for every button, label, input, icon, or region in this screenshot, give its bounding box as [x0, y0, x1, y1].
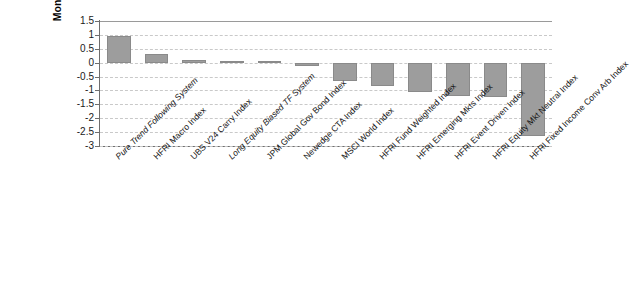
zero-baseline	[100, 21, 552, 22]
bar	[107, 36, 130, 62]
plot-area	[100, 21, 552, 146]
y-tick-label: -1.5	[54, 99, 94, 109]
bar	[295, 63, 318, 66]
bar	[521, 63, 544, 137]
y-tick-label: -1	[54, 85, 94, 95]
bar	[446, 63, 469, 96]
y-tick-label: 0.5	[54, 44, 94, 54]
y-tick-label: -3	[54, 141, 94, 151]
y-tick-label: 0	[54, 58, 94, 68]
y-tick-label: -0.5	[54, 72, 94, 82]
bar	[371, 63, 394, 87]
y-tick-label: 1.5	[54, 16, 94, 26]
y-tick-label: -2	[54, 113, 94, 123]
bar	[484, 63, 507, 98]
gridline	[100, 146, 552, 147]
y-tick-mark	[95, 146, 100, 147]
bar	[182, 60, 205, 63]
bar	[408, 63, 431, 92]
bar	[145, 54, 168, 62]
bar	[220, 61, 243, 63]
y-tick-label: -2.5	[54, 127, 94, 137]
bar	[333, 63, 356, 81]
y-tick-label: 1	[54, 30, 94, 40]
bar	[258, 61, 281, 63]
